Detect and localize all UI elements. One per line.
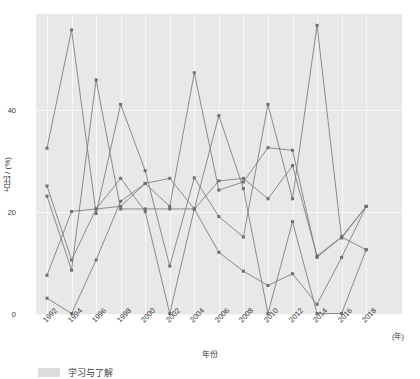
series-marker <box>291 220 294 223</box>
series-marker <box>46 274 49 277</box>
series-marker <box>46 195 49 198</box>
series-marker <box>168 265 171 268</box>
series-marker <box>340 256 343 259</box>
series-marker <box>291 272 294 275</box>
series-marker <box>217 251 220 254</box>
series-marker <box>266 312 269 315</box>
series-line <box>47 80 366 270</box>
series-marker <box>242 236 245 239</box>
series-marker <box>70 210 73 213</box>
series-marker <box>46 297 49 300</box>
series-marker <box>365 248 368 251</box>
series-marker <box>266 103 269 106</box>
series-marker <box>266 146 269 149</box>
series-marker <box>217 179 220 182</box>
legend-swatch <box>38 368 60 377</box>
series-marker <box>95 207 98 210</box>
series-marker <box>340 312 343 315</box>
series-marker <box>168 312 171 315</box>
series-marker <box>365 205 368 208</box>
series-marker <box>266 197 269 200</box>
series-marker <box>95 78 98 81</box>
series-marker <box>340 236 343 239</box>
legend-label: 学习与了解 <box>68 366 113 379</box>
series-marker <box>266 284 269 287</box>
series-marker <box>95 212 98 215</box>
series-marker <box>46 185 49 188</box>
series-layer <box>0 0 420 379</box>
series-line <box>47 178 366 313</box>
series-marker <box>119 207 122 210</box>
series-marker <box>291 197 294 200</box>
series-line <box>47 73 366 260</box>
series-marker <box>168 207 171 210</box>
series-marker <box>70 312 73 315</box>
series-marker <box>193 176 196 179</box>
series-marker <box>217 114 220 117</box>
series-marker <box>316 254 319 257</box>
series-marker <box>242 177 245 180</box>
series-marker <box>217 215 220 218</box>
series-marker <box>316 24 319 27</box>
series-marker <box>242 187 245 190</box>
series-marker <box>291 164 294 167</box>
series-marker <box>46 147 49 150</box>
series-marker <box>242 180 245 183</box>
series-marker <box>316 303 319 306</box>
chart-root: 02040 占比 / (%) 1992199419961998200020022… <box>0 0 420 379</box>
legend: 学习与了解 <box>38 366 113 379</box>
series-marker <box>193 207 196 210</box>
series-marker <box>119 177 122 180</box>
series-marker <box>193 71 196 74</box>
series-marker <box>95 258 98 261</box>
series-marker <box>119 103 122 106</box>
series-marker <box>144 169 147 172</box>
series-marker <box>70 269 73 272</box>
series-marker <box>70 28 73 31</box>
series-marker <box>217 189 220 192</box>
series-marker <box>119 200 122 203</box>
series-marker <box>168 177 171 180</box>
series-marker <box>144 182 147 185</box>
series-marker <box>291 149 294 152</box>
series-marker <box>316 312 319 315</box>
series-marker <box>242 270 245 273</box>
series-marker <box>144 210 147 213</box>
